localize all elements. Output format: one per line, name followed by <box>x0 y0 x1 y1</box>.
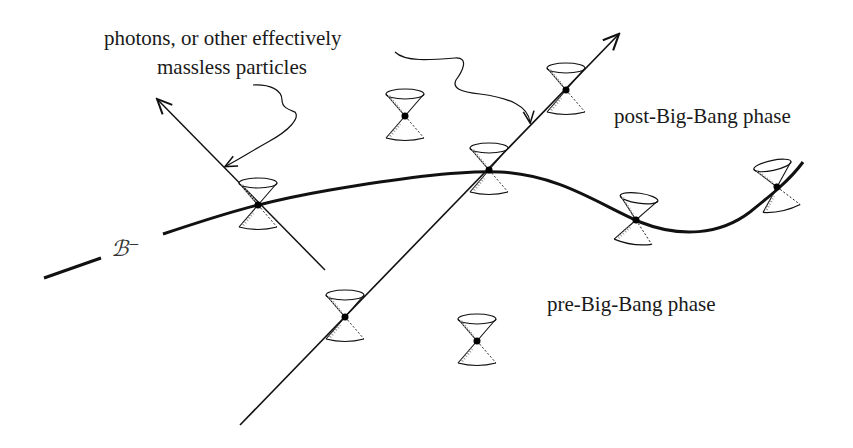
post-big-bang-label: post-Big-Bang phase <box>614 106 791 127</box>
diagram-canvas <box>0 0 853 448</box>
photon-worldline-right <box>240 35 618 425</box>
light-cone-icon <box>458 314 496 366</box>
light-cone-icon <box>326 290 364 342</box>
photons-label-line2: massless particles <box>157 57 307 78</box>
pointer-right <box>395 52 530 122</box>
light-cone-icon <box>386 89 424 141</box>
hypersurface-label: ℬ⁻ <box>111 238 140 260</box>
light-cone-icon <box>614 191 659 247</box>
pointer-left <box>226 85 296 166</box>
hypersurface-curve <box>44 162 803 278</box>
pre-big-bang-label: pre-Big-Bang phase <box>547 294 716 315</box>
light-cone-icon <box>239 178 277 230</box>
light-cone-icon <box>753 157 801 215</box>
light-cone-icon <box>547 63 585 115</box>
photons-label-line1: photons, or other effectively <box>104 28 342 49</box>
light-cone-icon <box>470 143 508 195</box>
